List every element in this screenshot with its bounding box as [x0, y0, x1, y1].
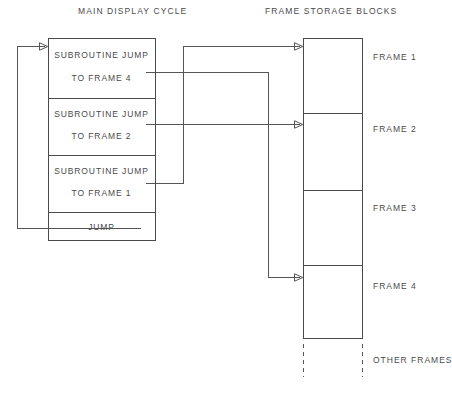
diagram-canvas: MAIN DISPLAY CYCLE FRAME STORAGE BLOCKS … — [0, 0, 452, 395]
frame-storage-blocks-box — [304, 39, 363, 377]
frame-label-other-frames: OTHER FRAMES — [373, 355, 452, 365]
frame-label-frame-4: FRAME 4 — [373, 281, 417, 291]
cycle-cell-3-line-1: SUBROUTINE JUMP — [48, 167, 155, 176]
heading-main-display-cycle: MAIN DISPLAY CYCLE — [78, 7, 187, 16]
cycle-cell-2-line-2: TO FRAME 2 — [48, 132, 155, 141]
frame-label-frame-3: FRAME 3 — [373, 203, 417, 213]
heading-frame-storage-blocks: FRAME STORAGE BLOCKS — [265, 7, 397, 16]
wire-subroutine-2-to-frame-2 — [146, 121, 303, 128]
cycle-cell-4-line-1: JUMP — [48, 223, 155, 232]
cycle-cell-1-line-2: TO FRAME 4 — [48, 74, 155, 83]
frame-label-frame-2: FRAME 2 — [373, 124, 417, 134]
wire-subroutine-1-to-frame-1 — [146, 43, 303, 184]
wire-subroutine-4-to-frame-4 — [146, 73, 303, 282]
cycle-cell-1-line-1: SUBROUTINE JUMP — [48, 51, 155, 60]
cycle-cell-3-line-2: TO FRAME 1 — [48, 189, 155, 198]
cycle-cell-2-line-1: SUBROUTINE JUMP — [48, 110, 155, 119]
frame-label-frame-1: FRAME 1 — [373, 52, 417, 62]
